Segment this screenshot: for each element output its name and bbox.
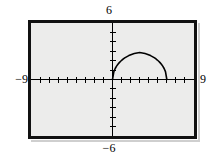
x-max-label: 9: [200, 73, 216, 85]
graphing-calculator-figure: 6 −9 9 −6: [0, 0, 218, 159]
calculator-screen-frame: [28, 20, 197, 139]
y-max-label: 6: [0, 4, 218, 16]
graph-plot-area: [31, 23, 194, 136]
x-min-label: −9: [6, 73, 28, 85]
y-min-label: −6: [0, 142, 218, 154]
plotted-curve: [113, 53, 167, 80]
